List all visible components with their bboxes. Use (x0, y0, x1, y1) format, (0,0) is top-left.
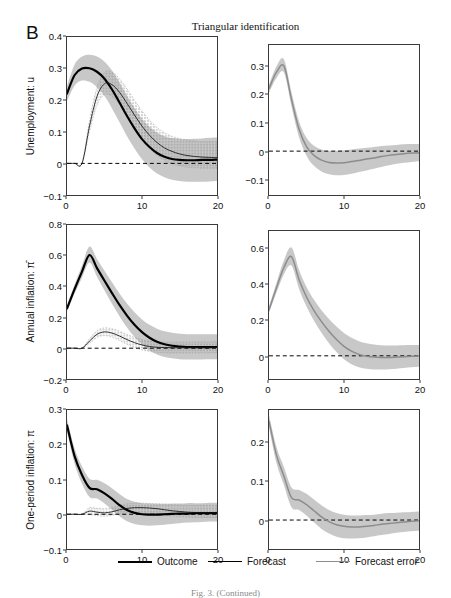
y-tick-label: 0 (259, 515, 264, 526)
y-tick-label: 0 (259, 146, 264, 157)
y-tick-label: −0.1 (43, 191, 62, 202)
plot-unemployment-outcome-forecast: −0.100.10.20.30.401020 (66, 36, 218, 196)
figure-caption: Fig. 3. (Continued) (0, 588, 451, 598)
y-tick-label: −0.1 (43, 545, 62, 556)
y-tick-label: 0.4 (49, 281, 62, 292)
plot-annual-inflation-forecast-error: 00.20.40.601020 (268, 230, 420, 380)
y-tick-mark (63, 164, 66, 165)
y-tick-mark (265, 248, 268, 249)
y-tick-label: 0 (57, 509, 62, 520)
x-tick-label: 10 (137, 384, 148, 395)
x-tick-label: 20 (213, 384, 224, 395)
plot-frame (66, 36, 218, 196)
legend-swatch-forecast-error (316, 561, 350, 562)
y-tick-mark (63, 479, 66, 480)
y-tick-label: 0.2 (49, 439, 62, 450)
legend-label-forecast-error: Forecast error (355, 556, 418, 567)
x-tick-label: 10 (339, 200, 350, 211)
x-tick-label: 0 (265, 384, 270, 395)
confidence-band (269, 58, 419, 175)
y-tick-mark (63, 100, 66, 101)
plot-frame (268, 230, 420, 380)
x-tick-mark (268, 380, 269, 383)
x-tick-mark (142, 550, 143, 553)
x-tick-label: 10 (339, 384, 350, 395)
figure-title: Triangular identification (0, 20, 451, 32)
y-tick-label: 0.2 (251, 89, 264, 100)
y-tick-mark (63, 255, 66, 256)
y-tick-mark (63, 36, 66, 37)
y-tick-mark (265, 122, 268, 123)
y-tick-label: 0.3 (251, 60, 264, 71)
x-tick-mark (420, 550, 421, 553)
y-tick-mark (63, 444, 66, 445)
plot-frame (268, 409, 420, 550)
y-tick-mark (265, 320, 268, 321)
x-tick-mark (218, 196, 219, 199)
y-tick-mark (63, 224, 66, 225)
x-tick-label: 0 (63, 200, 68, 211)
y-tick-mark (265, 481, 268, 482)
x-tick-mark (344, 550, 345, 553)
y-tick-label: −0.1 (245, 175, 264, 186)
legend-swatch-outcome (118, 561, 152, 563)
y-tick-label: 0.1 (49, 127, 62, 138)
y-axis-label: Annual inflation: π̄ (25, 262, 36, 343)
plot-one-period-inflation-outcome-forecast: −0.100.10.20.301020 (66, 409, 218, 550)
y-tick-label: 0.6 (49, 250, 62, 261)
x-tick-mark (142, 196, 143, 199)
plot-unemployment-forecast-error: −0.100.10.20.301020 (268, 44, 420, 196)
x-tick-mark (420, 196, 421, 199)
x-tick-mark (344, 380, 345, 383)
x-tick-mark (420, 380, 421, 383)
x-tick-mark (268, 196, 269, 199)
figure-legend: Outcome Forecast Forecast error (0, 556, 451, 572)
y-tick-label: 0.6 (251, 243, 264, 254)
y-tick-label: 0.3 (49, 63, 62, 74)
y-tick-label: 0.2 (49, 312, 62, 323)
x-tick-label: 20 (213, 200, 224, 211)
y-tick-mark (63, 317, 66, 318)
series-line (67, 255, 217, 347)
x-tick-label: 10 (137, 200, 148, 211)
x-tick-label: 20 (415, 200, 426, 211)
x-tick-mark (66, 196, 67, 199)
y-tick-label: 0.3 (49, 404, 62, 415)
x-tick-mark (218, 380, 219, 383)
y-tick-mark (265, 151, 268, 152)
confidence-band (269, 247, 419, 369)
x-tick-mark (66, 550, 67, 553)
y-axis-label: Unemployment: u (25, 77, 36, 155)
y-tick-label: 0.2 (251, 437, 264, 448)
y-tick-mark (63, 68, 66, 69)
y-tick-label: 0 (57, 343, 62, 354)
y-tick-mark (63, 132, 66, 133)
y-tick-label: 0.2 (251, 315, 264, 326)
plot-one-period-inflation-forecast-error: 00.10.201020 (268, 409, 420, 550)
legend-label-outcome: Outcome (157, 556, 198, 567)
y-tick-mark (63, 409, 66, 410)
y-tick-label: 0.1 (49, 474, 62, 485)
y-tick-mark (265, 94, 268, 95)
x-tick-mark (344, 196, 345, 199)
x-tick-mark (142, 380, 143, 383)
y-tick-mark (265, 356, 268, 357)
x-tick-mark (66, 380, 67, 383)
legend-item-outcome: Outcome (118, 556, 198, 567)
series-line (67, 425, 217, 514)
legend-item-forecast: Forecast (208, 556, 286, 567)
y-tick-label: 0 (259, 351, 264, 362)
plot-frame (268, 44, 420, 196)
legend-item-forecast-error: Forecast error (316, 556, 418, 567)
y-tick-label: 0.8 (49, 219, 62, 230)
y-tick-mark (265, 442, 268, 443)
figure-panel-b: B Triangular identification −0.100.10.20… (0, 0, 451, 598)
y-tick-label: 0 (57, 159, 62, 170)
y-tick-mark (265, 180, 268, 181)
y-tick-label: 0.1 (251, 117, 264, 128)
y-tick-label: 0.4 (251, 279, 264, 290)
y-tick-mark (265, 284, 268, 285)
legend-label-forecast: Forecast (247, 556, 286, 567)
x-tick-mark (218, 550, 219, 553)
y-tick-label: 0.4 (49, 31, 62, 42)
